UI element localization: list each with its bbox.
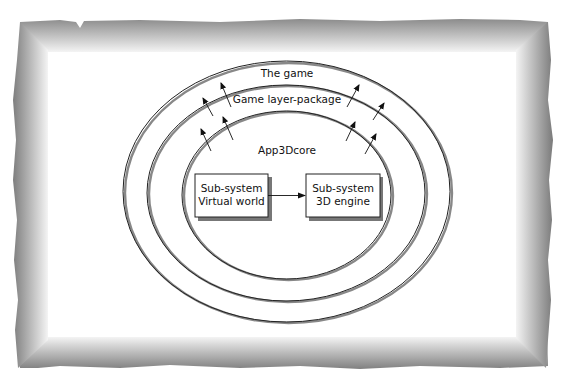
frame-bottom [16,337,548,369]
frame-top [20,19,548,52]
diagram-stage: The game Game layer-package App3Dcore Su… [0,0,566,380]
frame-right [516,22,553,368]
box-virtual-world: Sub-system Virtual world [195,174,268,217]
box-virtual-world-line1: Sub-system [201,182,263,194]
box-3d-engine: Sub-system 3D engine [306,174,380,217]
label-the-game: The game [260,67,314,79]
layer-diagram: The game Game layer-package App3Dcore Su… [0,0,566,380]
box-3d-engine-line1: Sub-system [312,182,374,194]
label-game-layer-package: Game layer-package [233,93,341,105]
label-app3dcore: App3Dcore [258,144,316,156]
box-3d-engine-line2: 3D engine [316,195,370,207]
box-virtual-world-line2: Virtual world [198,195,265,207]
frame-left [13,22,48,368]
